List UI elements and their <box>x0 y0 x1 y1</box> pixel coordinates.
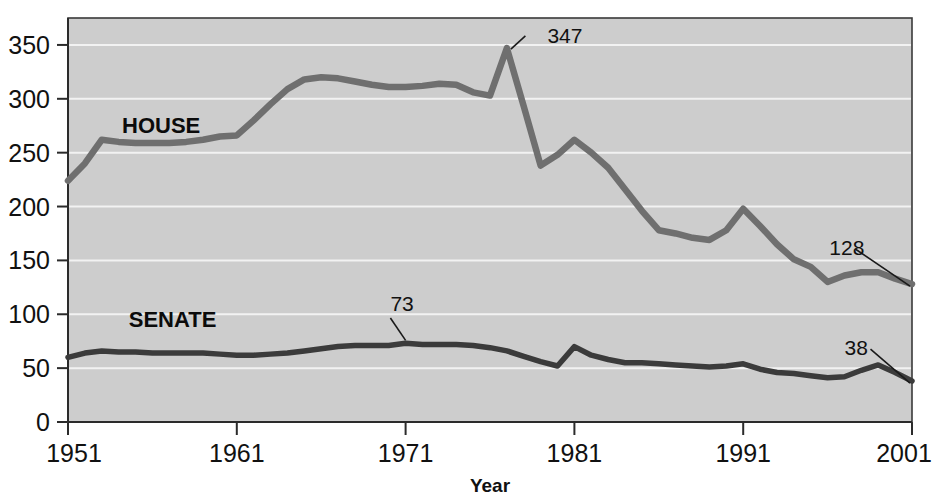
y-tick-label-200: 200 <box>8 193 50 221</box>
x-axis-ticks: 195119611971198119912001 <box>46 422 932 467</box>
y-tick-label-0: 0 <box>36 408 50 436</box>
x-tick-label-1981: 1981 <box>547 439 603 467</box>
annotation-label-38: 38 <box>844 336 867 359</box>
plot-area-background <box>68 18 912 422</box>
line-chart: 050100150200250300350 195119611971198119… <box>0 0 934 502</box>
y-tick-label-50: 50 <box>22 354 50 382</box>
series-label-senate: SENATE <box>129 307 217 332</box>
x-tick-label-1991: 1991 <box>715 439 771 467</box>
x-tick-label-1951: 1951 <box>46 439 102 467</box>
y-tick-label-250: 250 <box>8 139 50 167</box>
annotation-label-128: 128 <box>829 236 864 259</box>
plot-background-group <box>68 18 912 422</box>
annotation-label-73: 73 <box>390 292 413 315</box>
y-tick-label-350: 350 <box>8 31 50 59</box>
x-axis-title: Year <box>470 475 511 496</box>
x-tick-label-1971: 1971 <box>378 439 434 467</box>
y-tick-label-150: 150 <box>8 246 50 274</box>
y-tick-label-100: 100 <box>8 300 50 328</box>
chart-container: 050100150200250300350 195119611971198119… <box>0 0 934 502</box>
series-label-house: HOUSE <box>122 113 200 138</box>
x-tick-label-2001: 2001 <box>876 439 932 467</box>
y-tick-label-300: 300 <box>8 85 50 113</box>
annotation-label-347: 347 <box>547 24 582 47</box>
x-tick-label-1961: 1961 <box>209 439 265 467</box>
y-axis-ticks: 050100150200250300350 <box>8 31 68 436</box>
